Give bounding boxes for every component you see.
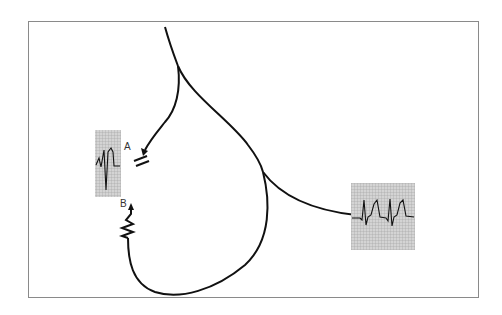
main-pathway [165, 27, 178, 66]
label-b: B [120, 198, 127, 209]
left-pathway [145, 66, 179, 150]
left-ecg-strip [95, 130, 121, 197]
right-pathway [178, 66, 263, 172]
pathway-diagram [0, 0, 502, 315]
right-ecg-strip [351, 183, 415, 250]
branch-to-right-ecg [263, 172, 356, 215]
block-mark-a2 [136, 161, 149, 166]
arrow-up-icon [128, 203, 134, 210]
zigzag-block-b [122, 208, 133, 238]
loop-pathway [128, 172, 268, 295]
block-mark-a1 [134, 156, 147, 161]
label-a: A [124, 141, 131, 152]
